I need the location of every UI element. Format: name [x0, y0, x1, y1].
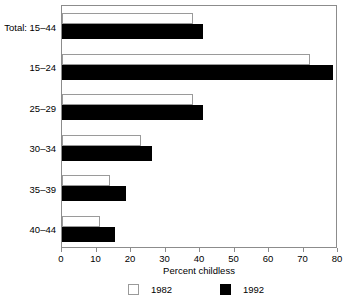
bar-group: [62, 87, 336, 128]
bar-1982-2529: [62, 94, 193, 105]
filled-square-icon: [220, 284, 231, 295]
y-axis-label-30-34: 30–34: [0, 143, 56, 154]
x-tick: [234, 248, 235, 252]
y-axis-label-total-15-44: Total: 15–44: [0, 22, 56, 33]
x-tick: [96, 248, 97, 252]
plot-area: [61, 5, 337, 248]
bar-1992-1544: [62, 24, 203, 39]
x-tick: [303, 248, 304, 252]
x-tick: [199, 248, 200, 252]
legend-entry-1992: 1992: [220, 284, 264, 295]
x-tick-label-80: 80: [332, 253, 343, 264]
x-tick-label-70: 70: [297, 253, 308, 264]
bar-1982-4044: [62, 216, 100, 227]
x-tick: [130, 248, 131, 252]
bar-group: [62, 6, 336, 47]
x-tick-label-20: 20: [125, 253, 136, 264]
bar-1992-3034: [62, 146, 152, 161]
bar-group: [62, 128, 336, 169]
bar-1992-4044: [62, 227, 115, 242]
legend-entry-1982: 1982: [128, 284, 172, 295]
x-tick-label-0: 0: [58, 253, 63, 264]
x-tick: [165, 248, 166, 252]
bars-container: [62, 6, 336, 247]
x-tick-label-60: 60: [263, 253, 274, 264]
open-square-icon: [128, 284, 139, 295]
bar-1982-1524: [62, 54, 310, 65]
bar-group: [62, 168, 336, 209]
x-tick: [61, 248, 62, 252]
x-tick-label-30: 30: [159, 253, 170, 264]
bar-1982-1544: [62, 13, 193, 24]
legend-label-1992: 1992: [237, 284, 264, 295]
bar-1992-1524: [62, 65, 333, 80]
bar-group: [62, 209, 336, 250]
y-axis-label-15-24: 15–24: [0, 62, 56, 73]
bar-1992-2529: [62, 105, 203, 120]
legend-label-1982: 1982: [145, 284, 172, 295]
childlessness-bar-chart: Total: 15–44 15–24 25–29 30–34 35–39 40–…: [0, 0, 355, 304]
x-tick-label-50: 50: [228, 253, 239, 264]
x-tick: [268, 248, 269, 252]
y-axis-label-25-29: 25–29: [0, 103, 56, 114]
x-tick: [337, 248, 338, 252]
chart-legend: 1982 1992: [95, 284, 305, 298]
bar-group: [62, 47, 336, 88]
y-axis-label-40-44: 40–44: [0, 224, 56, 235]
y-axis-label-35-39: 35–39: [0, 184, 56, 195]
bar-1982-3034: [62, 135, 141, 146]
x-tick-label-10: 10: [90, 253, 101, 264]
bar-1982-3539: [62, 175, 110, 186]
bar-1992-3539: [62, 186, 126, 201]
x-tick-label-40: 40: [194, 253, 205, 264]
x-axis-title: Percent childless: [61, 265, 337, 277]
